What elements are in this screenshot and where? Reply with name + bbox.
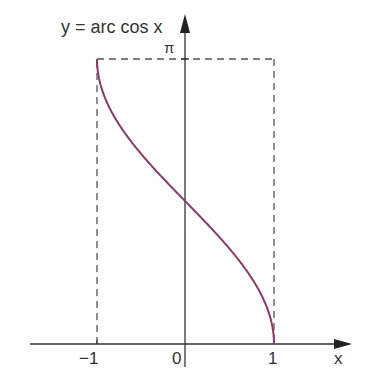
pi-label: π [164, 39, 174, 56]
x-tick-label-neg1: −1 [79, 349, 98, 368]
chart-title: y = arc cos x [61, 17, 163, 37]
arccos-chart: y = arc cos x π −1 0 1 x [0, 0, 365, 390]
x-tick-label-0: 0 [172, 349, 181, 368]
x-axis-arrow-icon [334, 339, 352, 349]
x-tick-label-1: 1 [268, 349, 277, 368]
x-axis-label: x [334, 349, 343, 368]
y-axis-arrow-icon [180, 14, 190, 33]
